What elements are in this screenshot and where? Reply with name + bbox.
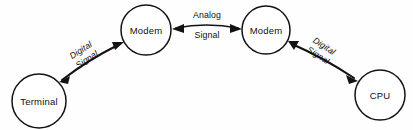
link-modem-modem-line — [176, 25, 238, 28]
arrow-head-modem-left-from-modem-right — [172, 24, 184, 33]
link-terminal-modem[interactable]: Digital Signal — [59, 39, 124, 84]
node-modem-left[interactable]: Modem — [121, 5, 171, 55]
node-terminal[interactable]: Terminal — [12, 74, 66, 128]
node-cpu[interactable]: CPU — [355, 70, 405, 120]
link-modem-modem-label-line1: Analog — [193, 10, 221, 20]
arrow-head-modem-left-from-terminal — [112, 42, 124, 50]
arrow-head-modem-right-from-modem-left — [230, 24, 242, 33]
node-modem-left-label: Modem — [130, 25, 163, 36]
node-modem-right-label: Modem — [250, 25, 283, 36]
link-modem-modem-label-line2: Signal — [194, 30, 219, 40]
link-modem-modem[interactable]: Analog Signal — [172, 10, 242, 40]
link-modem-cpu[interactable]: Digital Signal — [288, 35, 358, 84]
diagram-canvas: Digital Signal Analog Signal Digital Sig… — [0, 0, 413, 130]
node-terminal-label: Terminal — [20, 96, 58, 107]
node-cpu-label: CPU — [370, 90, 391, 101]
node-modem-right[interactable]: Modem — [242, 6, 290, 54]
